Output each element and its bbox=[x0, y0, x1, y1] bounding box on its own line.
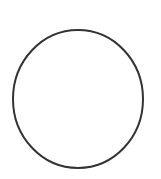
drawing-canvas: Circle outline bbox=[0, 0, 161, 179]
circle-outline bbox=[13, 30, 143, 168]
circle-outline-svg bbox=[0, 0, 161, 179]
